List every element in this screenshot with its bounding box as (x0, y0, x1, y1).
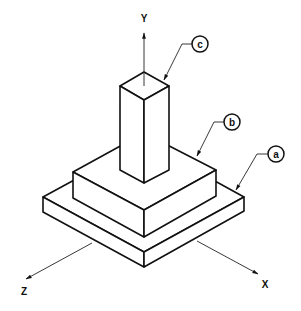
callout-label-a: a (273, 149, 279, 160)
callout-label-c: c (197, 39, 203, 50)
callout-a: a (236, 146, 284, 190)
isometric-drawing: Y Z X c b a (0, 0, 301, 311)
callout-label-b: b (229, 117, 235, 128)
column (120, 72, 169, 183)
x-axis (197, 241, 258, 274)
callout-c: c (164, 36, 208, 80)
callout-b: b (197, 114, 240, 156)
diagram-canvas: Y Z X c b a (0, 0, 301, 311)
axis-label-x: X (262, 279, 269, 290)
axis-label-y: Y (141, 13, 148, 24)
z-axis (26, 243, 92, 279)
axis-label-z: Z (21, 286, 27, 297)
